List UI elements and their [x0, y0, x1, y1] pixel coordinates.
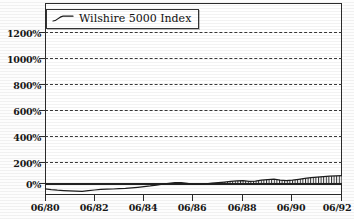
- plot-area: [45, 3, 342, 195]
- y-axis-label-800: 800%: [0, 80, 41, 91]
- x-tick-0682: [94, 195, 95, 201]
- x-tick-0680: [45, 195, 46, 201]
- y-axis-label-400: 400%: [0, 132, 41, 143]
- y-axis-label-1200: 1200%: [0, 28, 41, 39]
- x-tick-0686: [192, 195, 193, 201]
- line-sample-icon: [52, 14, 74, 23]
- x-axis-label-0692: 06/92: [307, 202, 354, 213]
- y-axis-label-1000: 1000%: [0, 54, 41, 65]
- legend-label-wilshire-5000-index: Wilshire 5000 Index: [79, 12, 191, 25]
- chart-legend: Wilshire 5000 Index: [46, 9, 199, 29]
- y-axis-label-0: 0%: [0, 179, 41, 190]
- y-axis-label-200: 200%: [0, 158, 41, 169]
- chart-container: 1200% 1000% 800% 600% 400% 200% 0%: [0, 0, 354, 219]
- series-wilshire-5000-index: [45, 3, 342, 195]
- x-tick-0692: [341, 195, 342, 201]
- y-axis-label-600: 600%: [0, 106, 41, 117]
- x-tick-0690: [291, 195, 292, 201]
- x-tick-0688: [242, 195, 243, 201]
- x-tick-0684: [143, 195, 144, 201]
